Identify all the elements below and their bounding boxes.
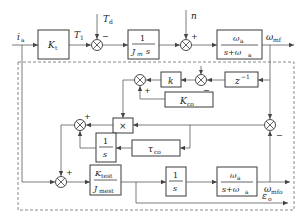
estimator-gain-block: K test J mest [90, 165, 121, 195]
input-label: i a [17, 32, 25, 43]
inertia-block: 1 J m s [128, 30, 159, 59]
filter-top-block: ω a s+ω a [217, 30, 262, 59]
kco-block: K co [165, 92, 213, 107]
sum-junction-error [265, 120, 276, 131]
sign-plus: + [191, 32, 198, 41]
svg-text:i: i [17, 32, 20, 42]
sum-junction-mult [75, 120, 86, 131]
multiplier-block: × [113, 118, 133, 133]
svg-text:s+ω: s+ω [222, 185, 240, 194]
sign-minus: − [102, 32, 109, 41]
sum-junction-noise [181, 40, 192, 51]
svg-text:o: o [268, 195, 272, 202]
integrator-block-2: 1 s [166, 167, 186, 196]
error-to-tau-line [180, 125, 190, 148]
omega-mf-label: ω mf [266, 32, 282, 43]
svg-text:s: s [103, 150, 107, 159]
svg-text:×: × [119, 121, 127, 131]
integrator-block-1: 1 s [96, 133, 116, 162]
svg-text:−1: −1 [241, 73, 250, 80]
svg-text:co: co [154, 148, 161, 155]
svg-text:a: a [240, 37, 244, 44]
svg-text:a: a [237, 174, 241, 181]
svg-text:s: s [173, 184, 177, 193]
filter-bottom-block: ω a s+ω a [217, 167, 257, 196]
svg-text:z: z [234, 76, 240, 86]
kt-block: K t [38, 30, 69, 59]
svg-text:ω: ω [233, 34, 240, 43]
sign-plus: + [66, 168, 73, 177]
sum-junction-gain [135, 75, 146, 86]
disturbance-label: T d [103, 14, 113, 25]
svg-text:a: a [245, 188, 249, 195]
sum-junction-torque [92, 40, 103, 51]
svg-text:mf: mf [273, 36, 282, 43]
sum-junction-delay [196, 75, 207, 86]
svg-text:mest: mest [99, 187, 114, 194]
svg-text:1: 1 [173, 171, 178, 180]
svg-text:a: a [21, 36, 25, 43]
svg-text:d: d [109, 18, 113, 25]
svg-text:co: co [187, 100, 194, 107]
svg-text:s+ω: s+ω [224, 48, 242, 57]
svg-text:a: a [248, 51, 252, 58]
tau-block: τ co [132, 140, 180, 156]
svg-text:1: 1 [103, 137, 108, 146]
svg-text:ω: ω [230, 171, 237, 180]
integrator1-out-line [80, 131, 96, 148]
delay-block: z −1 [225, 72, 258, 87]
svg-text:1: 1 [140, 34, 145, 43]
input-branch-line [22, 45, 55, 182]
svg-text:m: m [137, 50, 143, 57]
svg-text:1: 1 [80, 34, 84, 41]
svg-text:test: test [101, 172, 113, 179]
t1-label: T 1 [74, 30, 84, 41]
svg-text:s: s [146, 47, 150, 56]
sign-minus: − [276, 131, 283, 140]
svg-text:k: k [168, 76, 173, 86]
noise-label: n [191, 11, 197, 21]
omega-mfo-label: ω mfo [264, 184, 283, 195]
gain-out-line [123, 80, 135, 118]
svg-text:mfo: mfo [271, 188, 283, 195]
sign-plus: + [144, 86, 151, 95]
sum-junction-estimator [56, 177, 67, 188]
sign-plus: + [84, 112, 91, 121]
block-diagram: i a K t T 1 T d − 1 J m s n [0, 0, 302, 224]
k-block: k [161, 72, 181, 87]
